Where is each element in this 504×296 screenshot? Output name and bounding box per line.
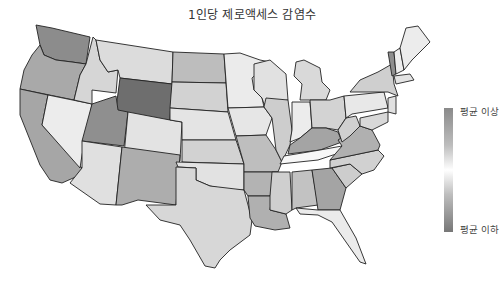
legend-label-below-average: 평균 이하: [460, 222, 499, 236]
state-nj: [388, 96, 396, 114]
state-ks: [182, 140, 244, 164]
legend-label-above-average: 평균 이상: [460, 104, 499, 118]
state-mi: [294, 60, 330, 100]
us-choropleth-map: [0, 0, 504, 296]
state-ma: [394, 74, 414, 84]
state-nm: [116, 147, 180, 205]
state-oh: [310, 96, 346, 130]
state-ms: [270, 172, 292, 214]
state-ia: [228, 107, 272, 136]
state-me: [400, 26, 430, 70]
state-sd: [170, 82, 228, 112]
state-nd: [172, 52, 226, 83]
state-md: [360, 112, 388, 130]
color-scale-bar: [444, 108, 453, 232]
state-fl: [296, 208, 366, 264]
